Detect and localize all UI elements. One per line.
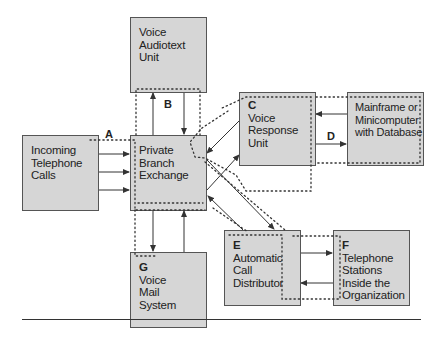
path-pbx-vru-loop: [190, 97, 311, 191]
bottom-rule: [22, 319, 421, 320]
path-acd-loop: [229, 235, 340, 299]
dotted-path-layer: [0, 0, 446, 354]
path-label-a: A: [105, 128, 113, 140]
path-label-d: D: [327, 130, 335, 142]
path-b: [136, 89, 200, 135]
path-label-b: B: [164, 98, 172, 110]
path-voicemail: [135, 210, 155, 256]
path-pbx-acd-2: [213, 208, 248, 232]
path-pbx-acd-1: [205, 162, 285, 230]
path-a: [90, 140, 205, 210]
